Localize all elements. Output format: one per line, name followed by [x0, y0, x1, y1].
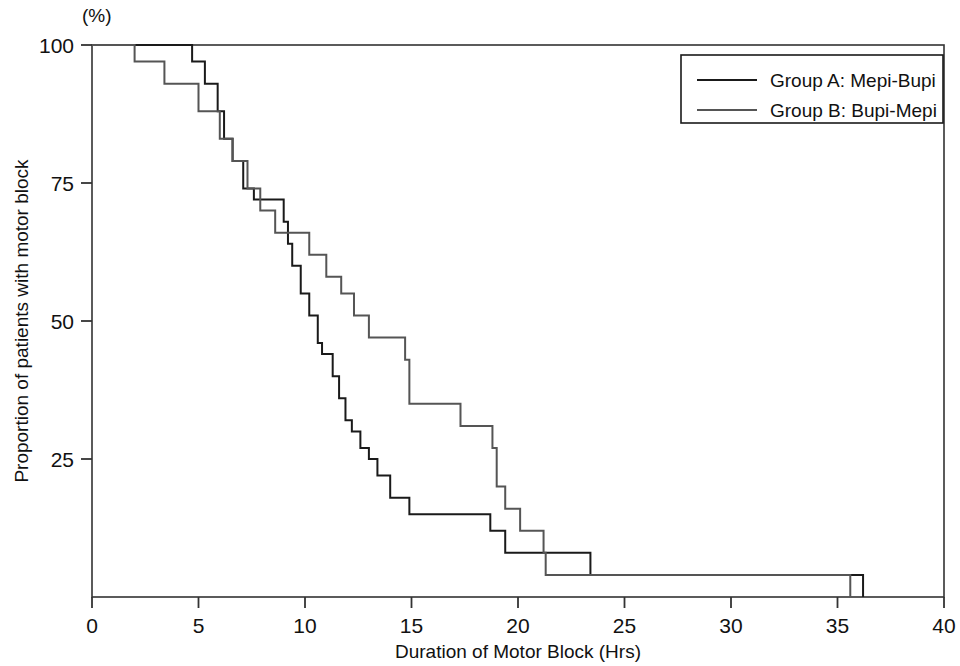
x-tick-label: 30: [719, 614, 742, 637]
y-tick-label: 75: [51, 172, 74, 195]
x-tick-label: 20: [506, 614, 529, 637]
y-tick-label: 100: [39, 34, 74, 57]
x-tick-label: 0: [86, 614, 98, 637]
x-axis-title: Duration of Motor Block (Hrs): [395, 641, 641, 662]
x-tick-label: 35: [826, 614, 849, 637]
x-tick-label: 25: [613, 614, 636, 637]
legend-label: Group B: Bupi-Mepi: [770, 100, 937, 121]
x-tick-label: 5: [193, 614, 205, 637]
x-tick-label: 15: [400, 614, 423, 637]
kaplan-meier-chart: (%) 255075100 0510152025303540 Proportio…: [0, 0, 960, 666]
chart-legend[interactable]: Group A: Mepi-BupiGroup B: Bupi-Mepi: [681, 55, 943, 123]
x-tick-label: 10: [293, 614, 316, 637]
legend-label: Group A: Mepi-Bupi: [770, 70, 936, 91]
y-axis-unit-label: (%): [82, 5, 112, 26]
y-tick-label: 50: [51, 310, 74, 333]
x-tick-label: 40: [932, 614, 955, 637]
y-tick-label: 25: [51, 448, 74, 471]
y-axis-title: Proportion of patients with motor block: [11, 159, 32, 483]
survival-chart-figure: (%) 255075100 0510152025303540 Proportio…: [0, 0, 960, 666]
